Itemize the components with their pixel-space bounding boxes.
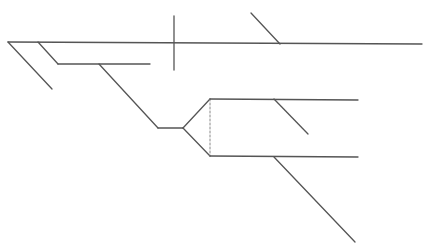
fork-down-line bbox=[183, 128, 210, 156]
upper-right-horizontal-line bbox=[210, 99, 358, 100]
lower-right-horizontal-line bbox=[210, 156, 358, 157]
lower-right-branch-line bbox=[274, 157, 355, 242]
fork-up-line bbox=[183, 99, 210, 128]
main-horizontal-line bbox=[8, 42, 422, 44]
upper-right-branch-line bbox=[274, 99, 308, 134]
long-diagonal-line bbox=[99, 64, 158, 128]
line-diagram bbox=[0, 0, 430, 250]
inner-diagonal-line bbox=[38, 42, 58, 64]
top-right-diagonal-line bbox=[251, 13, 280, 44]
left-diagonal-branch-line bbox=[8, 42, 52, 89]
